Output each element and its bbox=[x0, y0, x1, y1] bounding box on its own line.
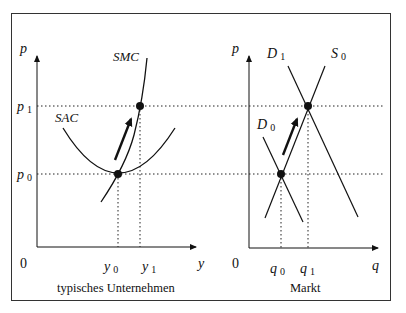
s0-curve bbox=[265, 66, 325, 218]
point-y1-p1 bbox=[136, 102, 144, 110]
p0-label: p0 bbox=[17, 168, 32, 183]
y1-label: y1 bbox=[142, 260, 156, 275]
q1-label: q1 bbox=[300, 262, 315, 277]
d1-label: D1 bbox=[267, 47, 285, 62]
q0-label: q0 bbox=[270, 262, 285, 277]
y0-label: y0 bbox=[104, 260, 118, 275]
left-caption: typisches Unternehmen bbox=[57, 281, 175, 296]
point-y0-p0 bbox=[114, 170, 122, 178]
left-x-axis-label: y bbox=[198, 257, 204, 271]
right-x-axis-label: q bbox=[372, 259, 379, 273]
left-y-axis-label: p bbox=[20, 42, 27, 56]
point-q1-p1 bbox=[304, 102, 312, 110]
s0-label: S0 bbox=[331, 47, 346, 62]
left-shift-arrow bbox=[115, 119, 131, 160]
p1-label: p1 bbox=[17, 100, 32, 115]
smc-label: SMC bbox=[113, 50, 139, 63]
right-origin-label: 0 bbox=[232, 257, 239, 271]
right-y-axis-label: p bbox=[232, 42, 239, 56]
sac-label: SAC bbox=[55, 111, 78, 124]
d1-curve bbox=[288, 66, 358, 217]
d0-label: D0 bbox=[257, 118, 275, 133]
point-q0-p0 bbox=[277, 170, 285, 178]
left-origin-label: 0 bbox=[20, 257, 27, 271]
right-shift-arrow bbox=[283, 119, 297, 155]
right-caption: Markt bbox=[290, 281, 321, 296]
